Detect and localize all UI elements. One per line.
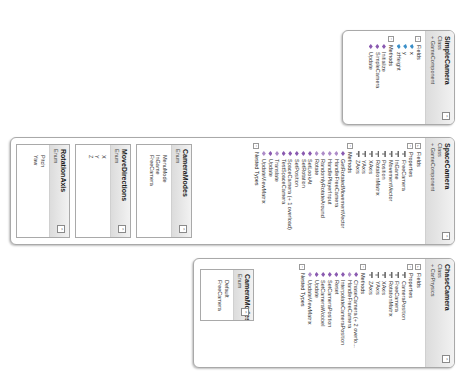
member-method[interactable]: Update [367,36,374,119]
member-property[interactable]: YAxis [374,264,381,362]
member-method[interactable]: Rotate [313,143,320,239]
section-toggle-icon[interactable]: − [347,143,353,149]
collapse-chevron-icon[interactable]: ⌃ [118,225,126,233]
section-title: Methods [359,273,366,294]
member-property[interactable]: RotationMatrix [374,143,381,239]
member-method[interactable]: SimpleCamera [374,36,381,119]
section-toggle-icon[interactable]: − [408,143,414,149]
member-field[interactable]: zHeight [395,36,402,119]
member-property[interactable]: XAxis [381,264,388,362]
member-property[interactable]: RotationMatrix [387,264,394,362]
section-fields[interactable]: − Fields [415,36,422,119]
member-field[interactable]: x [408,36,415,119]
property-icon [369,151,373,157]
section-toggle-icon[interactable]: − [416,36,422,42]
private-method-icon [328,151,332,156]
enum-rotationaxis[interactable]: RotationAxis Enum ⌃ Pitch Yaw [16,144,70,238]
class-kind: Class [436,36,443,119]
class-spacecamera[interactable]: SpaceCamera Class + GameComponent ⌃ + Fi… [10,137,455,245]
member-property[interactable]: FreeCamera [400,143,407,239]
collapse-chevron-icon[interactable]: ⌃ [57,225,65,233]
member-method[interactable]: UpdateViewMatrix [307,264,314,362]
section-title: Methods [346,152,353,173]
member-property[interactable]: Position [381,143,388,239]
method-icon [375,44,379,49]
class-simplecamera[interactable]: SimpleCamera Class + GameComponent ⌃ − F… [342,30,455,125]
member-method[interactable]: GetRotatedMovementVector [340,143,347,239]
collapse-chevron-icon[interactable]: ⌃ [241,308,249,316]
member-property[interactable]: YAxis [361,143,368,239]
section-toggle-icon[interactable]: + [416,143,422,149]
member-property[interactable]: MovementVector [387,143,394,239]
member-method[interactable]: InterpolateCameraPosition [340,264,347,362]
section-properties[interactable]: − Properties [407,143,414,239]
enum-cameramodes[interactable]: CameraModes Enum ⌃ MenuMode InGame FreeC… [136,144,192,238]
member-method[interactable]: HandlePlayerInput [326,143,333,239]
member-method[interactable]: Update [313,264,320,362]
member-field[interactable]: y [402,36,409,119]
section-nested-types[interactable]: − Nested Types [253,143,260,239]
collapse-chevron-icon[interactable]: ⌃ [442,232,450,240]
member-label: Update [367,52,374,70]
class-chasecamera[interactable]: ChaseCamera Class + CarPhysics ⌃ + Field… [193,258,455,368]
member-method[interactable]: SetCameraPosition [326,264,333,362]
member-label: SetCameraPosition [326,280,333,327]
member-method[interactable]: UpdateViewMatrix [261,143,268,239]
collapse-chevron-icon[interactable]: ⌃ [179,225,187,233]
member-method[interactable]: ChaseCamera (+ 2 overlo... [353,264,360,362]
class-name: SimpleCamera [443,36,451,119]
member-method[interactable]: SpaceCamera (+ 1 overload) [287,143,294,239]
member-method[interactable]: RandomlyRotateAround [320,143,327,239]
member-method[interactable]: HandleFreeCamera [333,143,340,239]
class-header: SpaceCamera Class + GameComponent ⌃ [425,138,454,244]
enum-value: Y [94,155,101,233]
member-method[interactable]: Update [267,143,274,239]
section-methods[interactable]: − Methods [346,143,353,239]
member-method[interactable]: Translate [274,143,281,239]
section-toggle-icon[interactable]: + [416,264,422,270]
member-method[interactable]: HandleFreeCamera [346,264,353,362]
class-name: SpaceCamera [443,143,451,239]
member-label: Reset [333,280,340,294]
member-method[interactable]: SetPosition [294,143,301,239]
section-toggle-icon[interactable]: − [360,264,366,270]
section-toggle-icon[interactable]: − [408,264,414,270]
enum-name: MoveDirections [120,149,128,233]
member-property[interactable]: ZAxis [354,143,361,239]
member-property[interactable]: CameraPosition [400,264,407,362]
class-base: + GameComponent [429,143,436,239]
member-label: FreeCamera [400,160,407,191]
member-property[interactable]: FreeCamera [394,264,401,362]
class-kind: Class [436,264,443,362]
private-method-icon [321,151,325,156]
member-property[interactable]: XAxis [367,143,374,239]
collapse-chevron-icon[interactable]: ⌃ [442,112,450,120]
member-method[interactable]: SetCameraWobbel [320,264,327,362]
enum-kind: Enum [174,149,181,233]
section-toggle-icon[interactable]: − [388,36,394,42]
property-icon [375,151,379,157]
section-nested-types[interactable]: − Nested Types [299,264,306,362]
member-method[interactable]: Initialize [381,36,388,119]
enum-kind: Enum [52,149,59,233]
member-property[interactable]: InGame [394,143,401,239]
collapse-chevron-icon[interactable]: ⌃ [442,355,450,363]
enum-movedirections[interactable]: MoveDirections Enum ⌃ X Y Z [75,144,131,238]
section-fields[interactable]: + Fields [415,264,422,362]
member-method[interactable]: TestSpaceCamera [280,143,287,239]
member-method[interactable]: Reset [333,264,340,362]
section-title: Nested Types [253,152,260,186]
section-methods[interactable]: − Methods [359,264,366,362]
enum-cameramodes[interactable]: CameraModes Enum ⌃ Default FreeCamera [200,269,254,321]
member-property[interactable]: ZAxis [367,264,374,362]
section-properties[interactable]: − Properties [407,264,414,362]
enum-value: FreeCamera [148,155,155,233]
section-fields[interactable]: + Fields [415,143,422,239]
section-toggle-icon[interactable]: − [299,264,305,270]
member-label: Rotate [313,159,320,175]
member-method[interactable]: SetLookAt [307,143,314,239]
member-method[interactable]: SetRotation [300,143,307,239]
section-toggle-icon[interactable]: − [253,143,259,149]
section-methods[interactable]: − Methods [387,36,394,119]
method-icon [341,151,345,156]
